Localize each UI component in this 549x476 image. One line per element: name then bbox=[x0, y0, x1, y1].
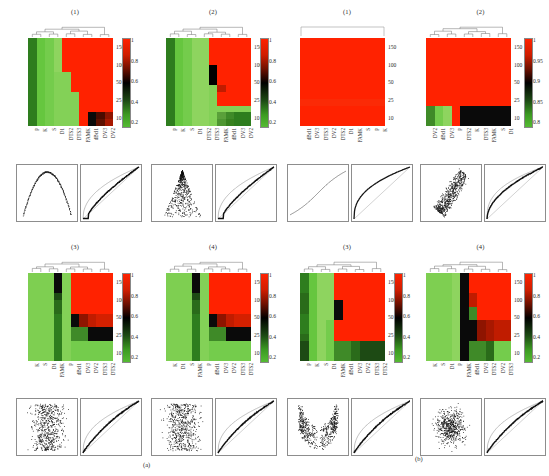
row-tick: 25 bbox=[116, 97, 122, 103]
heatmap-cell bbox=[486, 65, 495, 72]
heatmap-cell bbox=[62, 106, 71, 113]
heatmap-cell bbox=[183, 273, 192, 280]
heatmap-cell bbox=[88, 320, 97, 327]
heatmap-cell bbox=[360, 347, 369, 354]
heatmap-cell bbox=[96, 85, 105, 92]
heatmap-cell bbox=[300, 314, 309, 321]
heatmap-cell bbox=[435, 99, 444, 106]
heatmap-cell bbox=[317, 52, 326, 59]
heatmap-cell bbox=[443, 45, 452, 52]
heatmap-cell bbox=[28, 65, 37, 72]
column-label: D1 bbox=[509, 128, 514, 134]
heatmap-cell bbox=[469, 112, 478, 119]
heatmap-cell bbox=[105, 38, 114, 45]
heatmap-cell bbox=[334, 341, 343, 348]
heatmap-cell bbox=[317, 79, 326, 86]
heatmap-cell bbox=[300, 79, 309, 86]
heatmap-cell bbox=[317, 293, 326, 300]
heatmap-cell bbox=[105, 341, 114, 348]
heatmap-cell bbox=[175, 65, 184, 72]
heatmap-cell bbox=[166, 334, 175, 341]
row-tick: 10 bbox=[388, 115, 394, 121]
heatmap-cell bbox=[494, 58, 503, 65]
heatmap-cell bbox=[300, 287, 309, 294]
heatmap-cell bbox=[486, 307, 495, 314]
heatmap-cell bbox=[28, 85, 37, 92]
heatmap-cell bbox=[317, 273, 326, 280]
panel-b1: (1)150100502510dBcl1DV3DTS3DV2DTS2D1FAMK… bbox=[282, 8, 412, 158]
heatmap-cell bbox=[494, 65, 503, 72]
heatmap-cell bbox=[37, 45, 46, 52]
heatmap-cell bbox=[477, 79, 486, 86]
heatmap-cell bbox=[217, 314, 226, 321]
heatmap-cell bbox=[209, 320, 218, 327]
heatmap-cell bbox=[477, 273, 486, 280]
heatmap-cell bbox=[200, 45, 209, 52]
column-label: S bbox=[190, 363, 195, 366]
heatmap-cell bbox=[28, 320, 37, 327]
heatmap-cell bbox=[54, 307, 63, 314]
heatmap-cell bbox=[192, 58, 201, 65]
heatmap-cell bbox=[217, 347, 226, 354]
heatmap-cell bbox=[368, 341, 377, 348]
column-label: K bbox=[433, 363, 438, 367]
heatmap-cell bbox=[226, 347, 235, 354]
heatmap-cell bbox=[217, 65, 226, 72]
column-label: DTS2 bbox=[69, 128, 74, 140]
heatmap-cell bbox=[226, 287, 235, 294]
heatmap-cell bbox=[28, 300, 37, 307]
heatmap-cell bbox=[343, 273, 352, 280]
heatmap-cell bbox=[486, 334, 495, 341]
heatmap-cell bbox=[494, 341, 503, 348]
heatmap-cell bbox=[54, 347, 63, 354]
heatmap-cell bbox=[300, 58, 309, 65]
heatmap-cell bbox=[234, 79, 243, 86]
heatmap-cell bbox=[45, 347, 54, 354]
heatmap-cell bbox=[360, 65, 369, 72]
heatmap-cell bbox=[494, 307, 503, 314]
row-tick: 10 bbox=[116, 350, 122, 356]
heatmap-cell bbox=[503, 52, 512, 59]
heatmap-cell bbox=[368, 52, 377, 59]
heatmap-cell bbox=[243, 314, 252, 321]
heatmap-cell bbox=[200, 293, 209, 300]
heatmap-cell bbox=[226, 79, 235, 86]
heatmap-cell bbox=[435, 314, 444, 321]
smallplot-b-sp1 bbox=[287, 164, 349, 222]
heatmap-cell bbox=[452, 72, 461, 79]
heatmap-cell bbox=[192, 354, 201, 361]
heatmap-cell bbox=[105, 79, 114, 86]
heatmap-b1 bbox=[300, 38, 385, 126]
heatmap-cell bbox=[368, 273, 377, 280]
heatmap-cell bbox=[96, 119, 105, 126]
heatmap-cell bbox=[426, 280, 435, 287]
heatmap-cell bbox=[28, 341, 37, 348]
heatmap-cell bbox=[494, 287, 503, 294]
heatmap-cell bbox=[200, 287, 209, 294]
heatmap-cell bbox=[377, 99, 386, 106]
colorbar-tick: 0.6 bbox=[269, 313, 276, 319]
heatmap-cell bbox=[62, 293, 71, 300]
heatmap-cell bbox=[443, 38, 452, 45]
heatmap-cell bbox=[300, 65, 309, 72]
heatmap-cell bbox=[469, 65, 478, 72]
heatmap-cell bbox=[200, 334, 209, 341]
heatmap-cell bbox=[469, 287, 478, 294]
heatmap-cell bbox=[37, 119, 46, 126]
column-label: DV3 bbox=[450, 128, 455, 138]
heatmap-cell bbox=[368, 72, 377, 79]
column-label: P bbox=[307, 363, 312, 366]
heatmap-cell bbox=[435, 65, 444, 72]
heatmap-cell bbox=[452, 300, 461, 307]
column-labels-b2: DV2dBcl1DV3PDTS2KDTS3FAMKSD1 bbox=[426, 128, 511, 154]
heatmap-cell bbox=[192, 92, 201, 99]
heatmap-cell bbox=[200, 307, 209, 314]
heatmap-cell bbox=[334, 347, 343, 354]
colorbar-gradient-b2 bbox=[524, 38, 533, 128]
heatmap-cell bbox=[45, 99, 54, 106]
colorbar-a2: 10.80.60.40.2 bbox=[260, 38, 267, 126]
heatmap-cell bbox=[28, 347, 37, 354]
heatmap-cell bbox=[79, 341, 88, 348]
column-label: DV2 bbox=[111, 128, 116, 138]
heatmap-cell bbox=[234, 354, 243, 361]
